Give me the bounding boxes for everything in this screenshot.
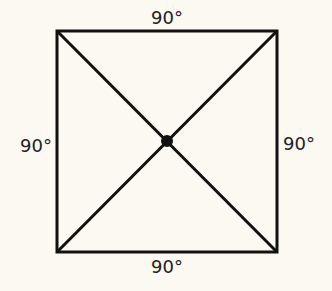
label-right: 90° — [283, 133, 315, 154]
center-point — [161, 135, 173, 147]
square-diagram: 90° 90° 90° 90° — [0, 0, 332, 291]
label-bottom: 90° — [151, 256, 183, 277]
label-left: 90° — [20, 135, 52, 156]
label-top: 90° — [151, 7, 183, 28]
